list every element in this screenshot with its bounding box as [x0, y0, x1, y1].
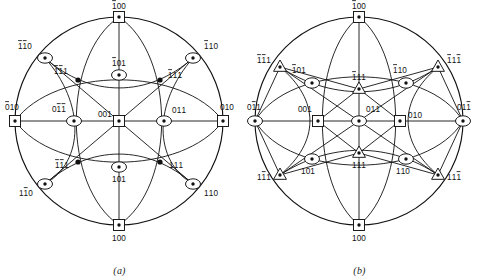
pole-label-text: 011: [366, 105, 380, 114]
pole-label: 110: [204, 189, 218, 198]
pole-label-text: 001: [98, 110, 112, 119]
pole-label-text: 111: [169, 161, 183, 170]
panel-caption-a: (a): [0, 265, 239, 276]
projection-panel-a: 1001000100100011101101101101011010110111…: [0, 0, 239, 278]
pole-symbol-dot: [75, 159, 80, 164]
pole-label: 011: [366, 105, 380, 114]
pole-label-text: 111: [55, 161, 69, 170]
pole-symbol-square: [354, 12, 365, 23]
pole-label: 111: [168, 70, 182, 80]
pole-label-text: 110: [19, 189, 33, 198]
pole-label-text: 010: [408, 111, 422, 120]
pole-label-text: 001: [298, 105, 312, 114]
pole-symbol-lens: [38, 53, 53, 63]
pole-label-text: 111: [257, 173, 271, 182]
pole-symbol-lens: [67, 116, 82, 126]
pole-label: 010: [5, 102, 19, 112]
pole-symbol-square: [395, 116, 406, 127]
pole-label: 011: [52, 104, 66, 114]
stereographic-projection-figure: 1001000100100011101101101101011010110111…: [0, 0, 479, 278]
pole-label: 011: [247, 102, 261, 112]
pole-symbol-lens: [186, 53, 201, 63]
pole-label-text: 110: [396, 167, 410, 176]
pole-label-text: 011: [172, 106, 186, 115]
pole-symbol-lens: [399, 154, 414, 164]
pole-label: 101: [301, 167, 315, 176]
pole-label: 111: [447, 172, 461, 182]
pole-label-text: 010: [5, 103, 19, 112]
pole-symbol-square: [114, 12, 125, 23]
pole-symbol-square: [218, 116, 229, 127]
pole-label: 111: [257, 172, 271, 182]
pole-label: 010: [220, 103, 234, 112]
pole-label-text: 111: [352, 161, 366, 170]
pole-label: 110: [18, 41, 32, 51]
pole-label-text: 110: [204, 189, 218, 198]
pole-label-text: 111: [257, 56, 271, 65]
pole-label-text: 111: [352, 73, 366, 82]
pole-symbol-square: [114, 220, 125, 231]
pole-label: 011: [457, 102, 471, 112]
projection-svg-b: 1001000010100110110111111111111111111111…: [240, 0, 479, 250]
pole-label-text: 010: [220, 103, 234, 112]
pole-label-text: 100: [112, 2, 126, 11]
pole-symbol-lens: [38, 179, 53, 189]
pole-label-text: 110: [204, 42, 218, 51]
pole-label: 110: [393, 65, 407, 75]
pole-label: 100: [352, 1, 366, 11]
pole-label: 111: [257, 55, 271, 65]
pole-label: 001: [298, 105, 312, 114]
pole-label: 111: [54, 66, 68, 76]
pole-label-text: 011: [52, 105, 66, 114]
projection-panel-b: 1001000010100110110111111111111111111111…: [240, 0, 479, 278]
pole-symbol-lens: [112, 162, 127, 172]
pole-symbol-triangle: [353, 146, 366, 157]
pole-symbol-lens: [157, 116, 172, 126]
pole-symbol-lens: [352, 116, 367, 126]
pole-label: 111: [352, 72, 366, 82]
pole-label-text: 110: [393, 66, 407, 75]
pole-label: 111: [169, 161, 183, 170]
pole-label-text: 011: [247, 103, 261, 112]
projection-svg-a: 1001000100100011101101101101011010110111…: [0, 0, 239, 250]
pole-symbol-dot: [157, 159, 162, 164]
pole-symbol-square: [10, 116, 21, 127]
pole-label: 001: [98, 110, 112, 119]
pole-label: 111: [352, 161, 366, 170]
pole-label-text: 101: [292, 66, 306, 75]
pole-symbol-dot: [157, 77, 162, 82]
pole-label-text: 111: [447, 56, 461, 65]
pole-label: 100: [352, 234, 366, 243]
panel-caption-b: (b): [240, 265, 479, 276]
pole-label: 110: [396, 167, 410, 176]
pole-label-text: 101: [301, 167, 315, 176]
pole-label-text: 111: [168, 71, 182, 80]
pole-symbol-lens: [456, 116, 471, 126]
pole-label-text: 101: [112, 59, 126, 68]
pole-label-text: 100: [352, 234, 366, 243]
pole-label: 100: [112, 1, 126, 11]
pole-label-text: 100: [112, 234, 126, 243]
pole-symbol-lens: [248, 116, 263, 126]
pole-symbol-lens: [305, 78, 320, 88]
pole-label: 101: [292, 65, 306, 75]
pole-label-text: 100: [352, 2, 366, 11]
pole-symbol-lens: [112, 70, 127, 80]
pole-label: 011: [172, 106, 186, 115]
pole-symbol-lens: [305, 154, 320, 164]
pole-symbol-square: [114, 116, 125, 127]
pole-label-text: 011: [457, 103, 471, 112]
pole-label: 110: [204, 41, 218, 51]
pole-label-text: 101: [112, 175, 126, 184]
pole-label: 111: [447, 55, 461, 65]
pole-label: 111: [55, 160, 69, 170]
pole-label: 101: [112, 175, 126, 184]
pole-symbol-lens: [186, 179, 201, 189]
pole-label: 100: [112, 234, 126, 243]
pole-symbol-triangle: [274, 60, 287, 71]
pole-label-text: 111: [447, 173, 461, 182]
pole-label: 110: [19, 188, 33, 198]
pole-symbol-square: [354, 220, 365, 231]
pole-label-text: 110: [18, 42, 32, 51]
pole-symbol-dot: [75, 77, 80, 82]
